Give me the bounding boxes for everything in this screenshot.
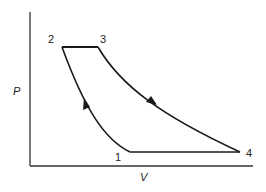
pv-diagram: P V 2 3 1 4 (0, 0, 266, 192)
point-label-2: 2 (48, 33, 54, 45)
point-label-3: 3 (100, 33, 106, 45)
path-1-2 (62, 47, 130, 152)
path-3-4 (98, 47, 240, 152)
x-axis-label: V (140, 171, 149, 183)
point-label-1: 1 (115, 151, 121, 163)
y-axis-label: P (13, 85, 21, 97)
point-label-4: 4 (246, 147, 252, 159)
